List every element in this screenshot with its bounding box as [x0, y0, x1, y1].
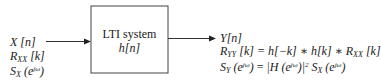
input-arrowhead-icon: [84, 39, 91, 45]
output-psd-equation: SY (ejω) = |H (ejω)|2 SX (ejω): [220, 59, 346, 77]
block-title: LTI system: [91, 28, 168, 41]
output-arrowhead-icon: [209, 36, 216, 42]
input-psd: SX (ejω): [10, 63, 44, 81]
input-signal: X [n]: [10, 36, 36, 49]
block-impulse-response: h[n]: [91, 42, 168, 55]
